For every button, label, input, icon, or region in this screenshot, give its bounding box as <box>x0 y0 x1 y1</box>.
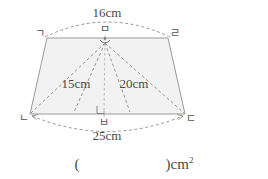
answer-unit-exponent: 2 <box>189 155 194 165</box>
vertex-label-top-left: ㄱ <box>35 27 45 39</box>
answer-blank-field[interactable] <box>80 155 166 169</box>
answer-unit: cm2 <box>171 155 194 173</box>
answer-row: ( ) cm2 <box>0 148 268 179</box>
dimension-label-top: 16cm <box>93 5 122 20</box>
vertex-label-bottom-mid: ㅂ <box>99 116 109 128</box>
answer-unit-base: cm <box>171 156 189 172</box>
dimension-label-right-diagonal: 20cm <box>120 76 149 91</box>
bottom-arc-left-arrowhead <box>32 115 38 120</box>
vertex-label-top-mid: ㅁ <box>100 23 110 35</box>
dimension-label-bottom: 25cm <box>93 128 122 143</box>
bottom-arc-right-arrowhead <box>177 115 183 120</box>
answer-expression: ( ) cm2 <box>75 155 194 173</box>
vertex-label-bottom-left: ㄴ <box>19 112 29 124</box>
vertex-label-top-right: ㄹ <box>170 27 180 39</box>
vertex-label-bottom-right: ㄷ <box>186 112 196 124</box>
dimension-label-left-diagonal: 15cm <box>62 76 91 91</box>
problem-figure-page: 16cm 25cm 15cm 20cm ㄱ ㅁ ㄹ ㄴ ㅂ ㄷ ( ) cm2 <box>0 0 268 179</box>
